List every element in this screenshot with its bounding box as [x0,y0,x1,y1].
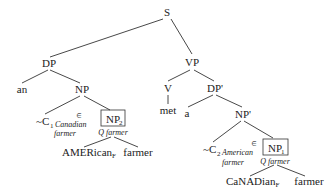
np1-index: 1 [281,148,285,156]
element-of-icon: ∈ [251,139,257,148]
alt-set-c1: ~C 1 ∈ Canadian farmer [36,111,87,138]
edge-vp-v [168,70,190,81]
edge-dp-np [50,70,80,83]
node-vp: VP [185,56,199,68]
node-s: S [164,6,170,18]
np2-index: 2 [119,119,123,127]
leaf-farmer-1: farmer [123,146,153,158]
focus-np1: NP 1 Q farmer [260,139,290,166]
node-v: V [164,82,172,94]
element-of-icon: ∈ [76,111,82,120]
c1-gloss-farmer: farmer [54,129,77,138]
c2-gloss-american: American [221,148,253,157]
node-np-prime: NP' [235,108,251,120]
np1-label: NP [268,142,282,154]
node-np: NP [75,83,89,95]
leaf-canadian-f: CaNADianF [226,175,280,189]
tilde-c2: ~C [203,143,216,155]
edge-dpbar-npbar [216,95,242,107]
leaf-farmer-2: farmer [294,175,324,187]
edge-s-dp [50,19,163,57]
leaf-an: an [17,83,28,95]
leaf-american-f: AMERicanF [62,146,116,160]
c2-index: 2 [217,150,221,158]
edge-dpbar-a [188,95,213,107]
alt-set-c2: ~C 2 ∈ American farmer [203,139,257,167]
np2-label: NP [106,113,120,125]
edge-s-vp [171,19,192,54]
node-dp: DP [42,57,56,69]
tilde-c1: ~C [36,115,49,127]
focus-np2: NP 2 Q farmer [98,110,128,137]
edge-vp-dpbar [194,70,214,81]
edge-np-np2 [84,96,110,110]
syntax-tree: S DP an NP ~C 1 ∈ Canadian farmer NP 2 Q… [0,0,330,191]
c2-gloss-farmer: farmer [222,158,245,167]
edge-npbar-c2 [213,121,241,142]
leaf-a: a [185,107,190,119]
edge-npbar-np1 [244,121,273,138]
edge-dp-an [22,70,48,83]
np2-annotation: Q farmer [98,128,128,137]
node-dp-prime: DP' [207,82,223,94]
np1-annotation: Q farmer [260,157,290,166]
leaf-met: met [160,104,177,116]
c1-gloss-canadian: Canadian [55,120,87,129]
edge-np-c1 [45,96,80,114]
